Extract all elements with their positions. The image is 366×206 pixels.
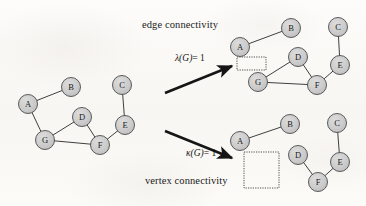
graph-node-vertex-cut-graph-C: C <box>328 114 347 133</box>
figure-canvas: ABCDEFGABCDEFGABCDEF edge connectivity v… <box>0 0 366 206</box>
graph-edge-edge-cut-graph-DF <box>303 64 312 77</box>
graph-node-label: E <box>122 120 127 130</box>
graph-edge-vertex-cut-graph-EC <box>338 132 340 153</box>
lambda-value: = 1 <box>192 53 204 63</box>
graph-node-original-graph-G: G <box>36 131 55 150</box>
graph-edge-edge-cut-graph-FE <box>324 71 333 79</box>
graph-node-label: D <box>295 150 301 160</box>
graph-node-edge-cut-graph-F: F <box>308 76 327 95</box>
graph-node-label: F <box>98 140 103 150</box>
graph-node-original-graph-A: A <box>19 95 38 114</box>
edge-connectivity-caption: edge connectivity <box>142 19 218 30</box>
graph-node-vertex-cut-graph-F: F <box>309 173 328 192</box>
graph-node-label: F <box>316 177 321 187</box>
graph-node-label: A <box>237 136 244 146</box>
graph-node-original-graph-E: E <box>116 116 135 135</box>
graph-node-label: C <box>119 80 125 90</box>
graph-node-label: D <box>79 112 85 122</box>
graph-edge-original-graph-EC <box>123 94 125 116</box>
kappa-symbol: κ(G) <box>186 148 204 158</box>
graph-node-label: F <box>315 80 320 90</box>
graph-edge-edge-cut-graph-AB <box>248 31 282 44</box>
graph-edge-original-graph-AG <box>32 112 41 132</box>
arrow-to-edge-connectivity <box>165 66 232 93</box>
graph-edge-original-graph-GF <box>54 141 91 144</box>
graph-node-original-graph-C: C <box>113 76 132 95</box>
kappa-connectivity-label: κ(G)= 1 <box>186 148 216 158</box>
graph-node-label: A <box>237 42 244 52</box>
kappa-value: = 1 <box>204 148 216 158</box>
graph-edge-edge-cut-graph-GF <box>267 82 308 84</box>
graph-node-original-graph-F: F <box>91 136 110 155</box>
graph-node-label: B <box>288 23 294 33</box>
graph-node-label: E <box>337 157 342 167</box>
graph-node-edge-cut-graph-A: A <box>231 38 250 57</box>
graph-edge-original-graph-FE <box>107 131 118 140</box>
graph-node-original-graph-B: B <box>62 78 81 97</box>
lambda-symbol: λ(G) <box>175 53 192 63</box>
graph-node-edge-cut-graph-C: C <box>329 18 348 37</box>
graph-node-label: A <box>25 99 32 109</box>
graph-node-label: B <box>68 82 74 92</box>
graph-nodes: ABCDEFGABCDEFGABCDEF <box>19 18 350 192</box>
graph-node-edge-cut-graph-B: B <box>282 19 301 38</box>
graph-edge-original-graph-DF <box>87 125 95 138</box>
graph-node-edge-cut-graph-G: G <box>249 73 268 92</box>
lambda-connectivity-label: λ(G)= 1 <box>175 53 205 63</box>
graph-node-original-graph-D: D <box>73 108 92 127</box>
graph-node-vertex-cut-graph-E: E <box>331 153 350 172</box>
graph-node-label: B <box>287 119 293 129</box>
graph-edge-vertex-cut-graph-FE <box>325 168 334 176</box>
graph-edge-edge-cut-graph-GD <box>266 62 291 77</box>
graph-node-edge-cut-graph-E: E <box>331 56 350 75</box>
graph-node-vertex-cut-graph-B: B <box>281 115 300 134</box>
removed-edge-box <box>237 57 266 70</box>
graph-edge-edge-cut-graph-EC <box>338 36 339 56</box>
graph-edge-vertex-cut-graph-DF <box>303 162 312 175</box>
graph-node-vertex-cut-graph-D: D <box>289 146 308 165</box>
vertex-connectivity-caption: vertex connectivity <box>145 175 228 186</box>
graph-edge-vertex-cut-graph-AB <box>249 127 282 138</box>
graph-edge-original-graph-GD <box>53 122 75 136</box>
graph-node-edge-cut-graph-D: D <box>289 48 308 67</box>
graph-node-label: G <box>255 77 261 87</box>
graph-node-label: C <box>335 22 341 32</box>
transition-arrows <box>165 66 232 158</box>
graph-node-label: E <box>337 60 342 70</box>
graph-edge-original-graph-AB <box>36 90 62 100</box>
removed-vertex-box <box>244 152 279 188</box>
graph-node-label: D <box>295 52 301 62</box>
graph-node-vertex-cut-graph-A: A <box>231 132 250 151</box>
graph-node-label: G <box>42 135 48 145</box>
graph-node-label: C <box>334 118 340 128</box>
